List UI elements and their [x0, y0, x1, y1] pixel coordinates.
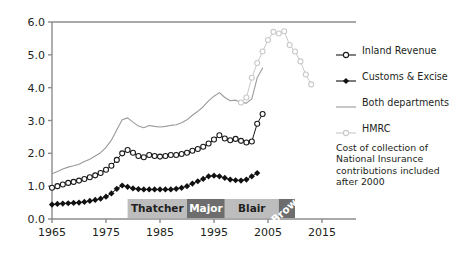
pm-term-bars: ThatcherMajorBlairBrown	[128, 191, 305, 225]
legend-note: Cost of collection of National Insurance…	[336, 142, 457, 188]
svg-text:3.0: 3.0	[28, 115, 46, 128]
svg-text:Thatcher: Thatcher	[131, 202, 185, 214]
legend-marker-plain-line	[336, 98, 356, 110]
svg-text:Major: Major	[189, 202, 223, 214]
svg-text:1985: 1985	[146, 226, 174, 239]
svg-text:4.0: 4.0	[28, 82, 46, 95]
legend-marker-open-circle-light	[336, 124, 356, 136]
svg-text:2005: 2005	[254, 226, 282, 239]
legend-label: Customs & Excise	[362, 71, 448, 83]
svg-text:1995: 1995	[200, 226, 228, 239]
svg-text:2.0: 2.0	[28, 147, 46, 160]
series-hmrc	[239, 29, 314, 105]
chart-series-group	[49, 29, 314, 208]
series-inland-revenue	[50, 111, 266, 190]
legend-marker-open-circle	[336, 46, 356, 58]
chart-axes	[48, 22, 356, 223]
chart-figure: £ billion (2012–13 values) ThatcherMajor…	[0, 0, 457, 257]
svg-text:Blair: Blair	[238, 202, 266, 214]
svg-text:1965: 1965	[38, 226, 66, 239]
svg-text:6.0: 6.0	[28, 16, 46, 29]
svg-text:2015: 2015	[308, 226, 336, 239]
legend-label: HMRC	[362, 123, 390, 135]
svg-text:5.0: 5.0	[28, 49, 46, 62]
legend-label: Both departments	[362, 97, 449, 109]
svg-text:1.0: 1.0	[28, 180, 46, 193]
svg-text:0.0: 0.0	[28, 213, 46, 226]
legend-label: Inland Revenue	[362, 45, 436, 57]
svg-text:1975: 1975	[92, 226, 120, 239]
legend-marker-filled-diamond	[336, 72, 356, 84]
